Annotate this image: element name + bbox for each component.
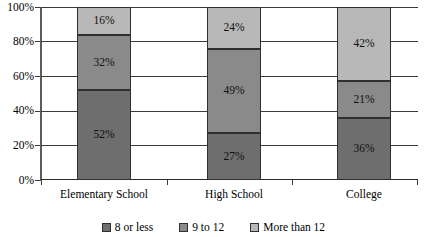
y-tick-label-0: 0% xyxy=(19,175,34,187)
legend-swatch-icon xyxy=(179,223,188,232)
y-tick-label-40: 40% xyxy=(13,105,34,117)
legend-item-label: 9 to 12 xyxy=(192,221,224,233)
bar-value-label: 16% xyxy=(93,15,114,27)
legend-item-8-or-less[interactable]: 8 or less xyxy=(102,221,153,233)
y-tick-label-60: 60% xyxy=(13,71,34,83)
plot-area: 52% 32% 16% 27% 49% 24% 36% xyxy=(41,7,418,180)
legend-swatch-icon xyxy=(102,223,111,232)
bar-value-label: 24% xyxy=(223,22,244,34)
x-tick-mark-3 xyxy=(417,180,418,185)
chart-legend: 8 or less 9 to 12 More than 12 xyxy=(0,219,427,235)
bar-value-label: 27% xyxy=(223,151,244,163)
y-tick-label-20: 20% xyxy=(13,140,34,152)
bar-value-label: 32% xyxy=(93,57,114,69)
x-tick-mark-0 xyxy=(41,180,42,185)
x-category-label-college: College xyxy=(346,188,382,201)
bar-value-label: 42% xyxy=(353,38,374,50)
bar-segment-college-more-than-12[interactable]: 42% xyxy=(337,7,391,81)
bar-segment-elementary-more-than-12[interactable]: 16% xyxy=(77,7,131,35)
bar-segment-college-9-to-12[interactable]: 21% xyxy=(337,81,391,118)
y-axis-labels: 100% 80% 60% 40% 20% 0% xyxy=(0,0,36,237)
bar-segment-college-8-or-less[interactable]: 36% xyxy=(337,118,391,180)
x-tick-mark-1 xyxy=(167,180,168,185)
x-category-label-high-school: High School xyxy=(205,188,263,201)
x-tick-mark-2 xyxy=(292,180,293,185)
legend-item-more-than-12[interactable]: More than 12 xyxy=(250,221,325,233)
bar-stack-elementary-school[interactable]: 52% 32% 16% xyxy=(77,7,131,180)
bar-segment-elementary-8-or-less[interactable]: 52% xyxy=(77,90,131,180)
bar-segment-highschool-more-than-12[interactable]: 24% xyxy=(207,7,261,49)
bar-value-label: 52% xyxy=(93,129,114,141)
x-category-label-elementary-school: Elementary School xyxy=(60,188,148,201)
bar-value-label: 49% xyxy=(223,85,244,97)
bar-segment-highschool-9-to-12[interactable]: 49% xyxy=(207,49,261,133)
bar-value-label: 21% xyxy=(353,94,374,106)
bar-segment-elementary-9-to-12[interactable]: 32% xyxy=(77,35,131,90)
bar-value-label: 36% xyxy=(353,143,374,155)
y-tick-label-100: 100% xyxy=(7,2,34,14)
legend-swatch-icon xyxy=(250,223,259,232)
y-tick-label-80: 80% xyxy=(13,36,34,48)
bar-segment-highschool-8-or-less[interactable]: 27% xyxy=(207,133,261,180)
bar-stack-high-school[interactable]: 27% 49% 24% xyxy=(207,7,261,180)
legend-item-9-to-12[interactable]: 9 to 12 xyxy=(179,221,224,233)
stacked-bar-chart: 100% 80% 60% 40% 20% 0% 52% 32% 16% xyxy=(0,0,427,237)
legend-item-label: More than 12 xyxy=(263,221,325,233)
bar-stack-college[interactable]: 36% 21% 42% xyxy=(337,7,391,180)
legend-item-label: 8 or less xyxy=(115,221,153,233)
